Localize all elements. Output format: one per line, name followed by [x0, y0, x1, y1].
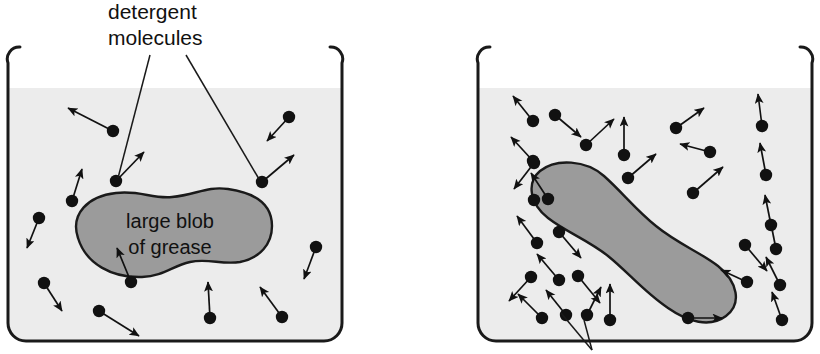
left-blob-label-line1: large blob	[126, 210, 214, 232]
detergent-label-line1: detergent	[108, 0, 197, 23]
detergent-grease-figure: large blob of grease	[0, 0, 820, 354]
left-panel: large blob of grease	[7, 47, 342, 341]
molecule	[528, 194, 540, 206]
right-panel	[477, 47, 812, 350]
detergent-label-line2: molecules	[108, 26, 203, 49]
left-blob-label-line2: of grease	[128, 236, 211, 258]
